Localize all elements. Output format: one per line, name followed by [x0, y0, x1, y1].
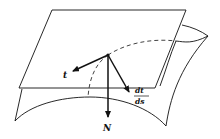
derivative-denominator-label: ds	[135, 97, 145, 106]
tangent-plane	[19, 10, 186, 88]
normal-label: N	[102, 123, 112, 133]
tangent-plane-diagram: t N dt ds	[0, 0, 220, 139]
contact-point	[106, 53, 109, 56]
derivative-numerator-label: dt	[135, 86, 144, 95]
